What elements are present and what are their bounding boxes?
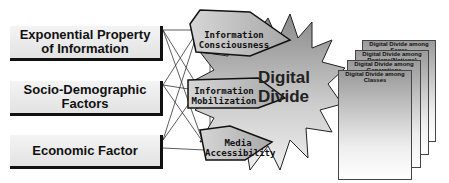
center-line2: Divide	[258, 87, 310, 106]
mediator-line1: Information	[188, 86, 260, 96]
digital-divide-title: Digital Divide	[258, 68, 310, 106]
factor-line1: Exponential Property	[10, 28, 160, 42]
mediator-line1: Information	[198, 30, 270, 40]
factor-exponential-property: Exponential Property of Information	[10, 26, 163, 61]
factor-socio-demographic: Socio-Demographic Factors	[10, 81, 163, 116]
factor-line1: Economic Factor	[10, 144, 160, 158]
mediator-line2: Consciousness	[198, 40, 270, 50]
mediator-information-consciousness: Information Consciousness	[198, 30, 270, 50]
center-line1: Digital	[258, 68, 310, 87]
outcome-page-classes: Digital Divide among Classes	[338, 70, 412, 180]
factor-line1: Socio-Demographic	[10, 83, 160, 97]
factor-line2: Factors	[10, 97, 160, 111]
factor-line2: of Information	[10, 42, 160, 56]
mediator-line2: Accessibility	[205, 148, 271, 158]
factor-economic: Economic Factor	[10, 135, 163, 169]
mediator-information-mobilization: Information Mobilization	[188, 86, 260, 106]
mediator-line2: Mobilization	[188, 96, 260, 106]
outcome-line2: Classes	[339, 77, 411, 83]
mediator-line1: Media	[205, 138, 271, 148]
mediator-media-accessibility: Media Accessibility	[205, 138, 271, 158]
